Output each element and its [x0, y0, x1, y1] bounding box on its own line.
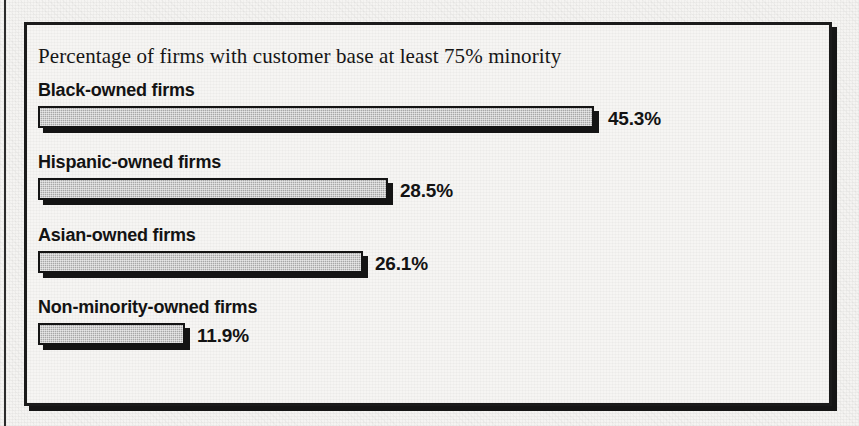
chart-title: Percentage of firms with customer base a…: [38, 44, 561, 68]
bar-category-label: Hispanic-owned firms: [38, 152, 221, 172]
bar-category-label: Non-minority-owned firms: [38, 297, 257, 317]
chart-frame-shadow-bottom: [29, 406, 837, 411]
bar-fill: [38, 106, 594, 128]
bar-category-label: Black-owned firms: [38, 80, 195, 100]
bar-value-label: 26.1%: [375, 253, 428, 275]
bar-value-label: 28.5%: [400, 180, 453, 202]
page-left-rule: [4, 0, 6, 426]
bar-fill: [38, 251, 363, 273]
bar-fill: [38, 178, 388, 200]
bar-fill: [38, 323, 185, 345]
bar-category-label: Asian-owned firms: [38, 225, 196, 245]
bar-value-label: 11.9%: [197, 325, 249, 347]
chart-frame-shadow-right: [832, 27, 837, 411]
scanned-page: Percentage of firms with customer base a…: [0, 0, 859, 426]
bar-value-label: 45.3%: [608, 108, 661, 130]
